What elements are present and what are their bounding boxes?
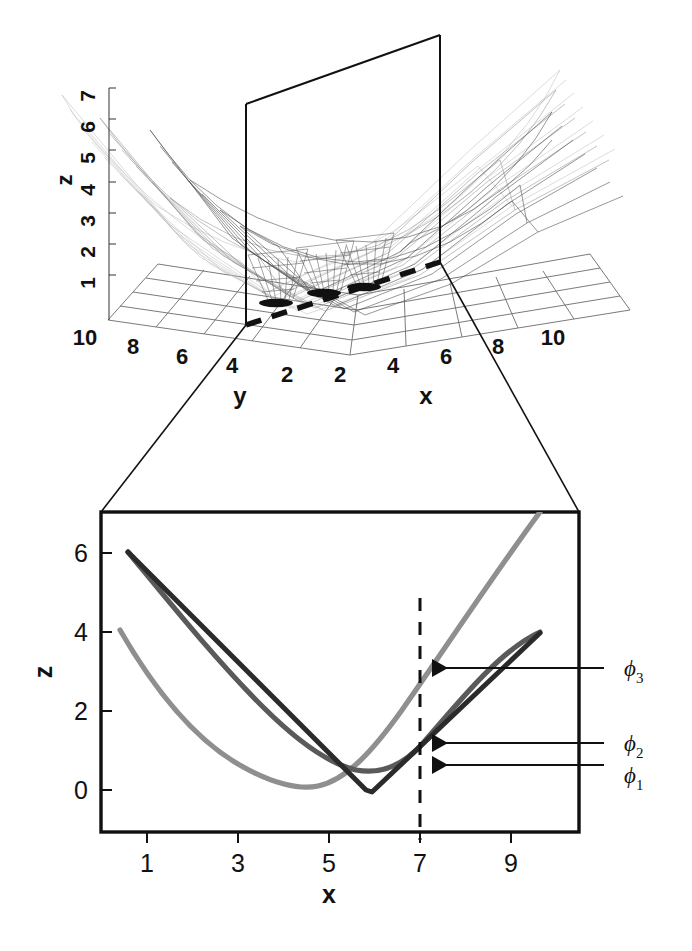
surface-phi2-mesh <box>100 90 609 311</box>
x2d-tick-3: 3 <box>231 849 245 877</box>
panel-3d: 7 6 5 4 3 2 1 z 10 8 6 4 2 y 2 4 <box>52 35 630 409</box>
z-tick-5: 5 <box>76 152 99 164</box>
x2d-tick-7: 7 <box>413 849 427 877</box>
x3d-tick-10: 10 <box>541 325 565 350</box>
label-phi3: ϕ3 <box>624 656 643 686</box>
y-tick-10: 10 <box>73 325 97 350</box>
y2d-tick-4: 4 <box>74 618 88 646</box>
x2d-tick-1: 1 <box>140 849 154 877</box>
z-axis-label: z <box>52 175 77 186</box>
figure-canvas: 7 6 5 4 3 2 1 z 10 8 6 4 2 y 2 4 <box>0 0 692 951</box>
y-axis-label: y <box>233 382 247 409</box>
y-axis-label-2d: z <box>29 666 57 679</box>
x-tick-labels-2d: 1 3 5 7 9 x <box>140 849 518 908</box>
x3d-tick-4: 4 <box>387 353 400 378</box>
z-tick-4: 4 <box>76 184 99 196</box>
z-tick-1: 1 <box>76 277 99 289</box>
y-tick-6: 6 <box>176 344 188 369</box>
y-tick-2: 2 <box>281 362 293 387</box>
figure-root: 7 6 5 4 3 2 1 z 10 8 6 4 2 y 2 4 <box>0 0 692 951</box>
z-tick-3: 3 <box>76 215 99 227</box>
y-tick-4: 4 <box>226 353 239 378</box>
label-phi2: ϕ2 <box>624 731 643 761</box>
y2d-tick-6: 6 <box>74 539 88 567</box>
y-tick-labels-2d: 6 4 2 0 z <box>29 539 88 804</box>
x-axis-label-2d: x <box>322 880 336 908</box>
x2d-tick-5: 5 <box>322 849 336 877</box>
callout-labels: ϕ3 ϕ2 ϕ1 <box>624 656 643 793</box>
y2d-tick-2: 2 <box>74 697 88 725</box>
label-phi1: ϕ1 <box>624 763 643 793</box>
z-tick-labels: 7 6 5 4 3 2 1 z <box>52 90 99 289</box>
z-tick-6: 6 <box>76 121 99 133</box>
x3d-tick-8: 8 <box>492 334 504 359</box>
z-tick-7: 7 <box>76 90 99 102</box>
x3d-tick-6: 6 <box>440 344 452 369</box>
y-tick-labels: 10 8 6 4 2 y <box>73 325 293 409</box>
x3d-tick-2: 2 <box>334 362 346 387</box>
y2d-tick-0: 0 <box>74 776 88 804</box>
y-tick-8: 8 <box>127 334 139 359</box>
x2d-tick-9: 9 <box>504 849 518 877</box>
panel-2d: 6 4 2 0 z 1 3 5 7 9 x <box>29 512 643 908</box>
z-tick-2: 2 <box>76 246 99 258</box>
z-axis <box>109 88 116 320</box>
surface-phi3-mesh <box>62 70 615 314</box>
x-axis-label-3d: x <box>419 382 433 409</box>
